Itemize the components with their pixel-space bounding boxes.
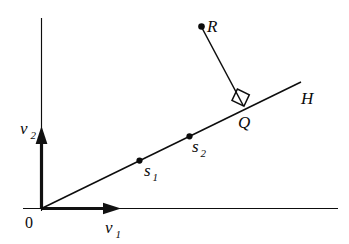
label-v2-base: v [20, 119, 28, 138]
point-dot-s1 [136, 158, 142, 164]
label-s2: s 2 [192, 137, 207, 159]
figure-canvas: 0 v 1 v 2 s 1 s 2 Q R H [0, 0, 349, 244]
label-s1-base: s [144, 161, 151, 180]
arrow-head-up-icon [36, 126, 48, 144]
basis-vector-v1 [42, 203, 121, 214]
geometry-figure: 0 v 1 v 2 s 1 s 2 Q R H [0, 0, 349, 244]
perpendicular-segment-rq [202, 27, 244, 106]
origin-label: 0 [25, 214, 33, 231]
label-q: Q [238, 113, 250, 132]
point-dot-r [198, 23, 205, 30]
label-v1-subscript: 1 [116, 228, 122, 240]
label-s2-subscript: 2 [201, 147, 207, 159]
label-s2-base: s [192, 137, 199, 156]
label-s1: s 1 [144, 161, 158, 183]
label-s1-subscript: 1 [153, 171, 159, 183]
label-v2-subscript: 2 [31, 129, 37, 141]
right-angle-marker [232, 89, 249, 106]
basis-vector-v2 [36, 126, 48, 208]
label-v2: v 2 [20, 119, 37, 141]
label-h: H [300, 89, 315, 108]
label-v1-base: v [105, 218, 113, 237]
label-r: R [206, 17, 218, 36]
label-v1: v 1 [105, 218, 121, 240]
line-h [42, 82, 302, 209]
arrow-head-right-icon [103, 203, 121, 214]
